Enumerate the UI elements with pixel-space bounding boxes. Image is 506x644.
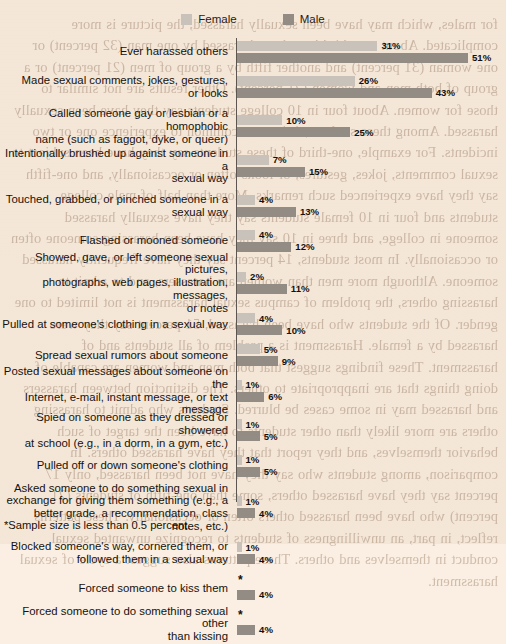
row-category-label: Touched, grabbed, or pinched someone in …: [0, 193, 232, 219]
bar-value-label: 4%: [259, 194, 273, 205]
row-category-label-line: name (such as faggot, dyke, or queer): [0, 133, 228, 146]
bar-value-label: 9%: [282, 356, 296, 367]
row-category-label: Pulled off or down someone's clothing: [0, 459, 232, 472]
row-category-label: Spied on someone as they dressed or show…: [0, 411, 232, 449]
bar-value-label: 31%: [381, 40, 400, 51]
bar-female: 1%: [237, 380, 506, 390]
bar-rect: [237, 590, 255, 600]
bar-rect: [237, 325, 282, 335]
row-bar-group: 7%15%: [237, 155, 506, 177]
row-bar-group: 4%13%: [237, 195, 506, 217]
bar-value-label: 5%: [264, 344, 278, 355]
legend-swatch-icon: [181, 14, 192, 25]
chart-legend: FemaleMale: [0, 13, 506, 25]
bar-male: 51%: [237, 53, 506, 63]
chart-row: Called someone gay or lesbian or a homop…: [0, 107, 506, 147]
bar-value-label: *: [238, 577, 243, 583]
row-bar-group: 4%12%: [237, 230, 506, 252]
chart-row: Pulled at someone's clothing in a sexual…: [0, 309, 506, 340]
row-category-label: Made sexual comments, jokes, gestures,or…: [0, 74, 232, 100]
row-bar-group: 10%25%: [237, 115, 506, 137]
row-category-label: Blocked someone's way, cornered them, or…: [0, 540, 232, 566]
bar-value-label: 1%: [246, 496, 260, 507]
bar-rect: [237, 392, 264, 402]
row-category-label-line: Showed, gave, or left someone sexual pic…: [0, 251, 228, 277]
bar-value-label: 4%: [259, 508, 273, 519]
row-bar-group: 5%9%: [237, 344, 506, 366]
row-category-label-line: or looks: [0, 87, 228, 100]
bar-male: 4%: [237, 554, 506, 564]
bar-value-label: 4%: [259, 554, 273, 565]
bar-male: 43%: [237, 88, 506, 98]
row-category-label-line: sexual way: [0, 172, 228, 185]
chart-footnote: *Sample size is less than 0.5 percent.: [4, 519, 191, 531]
chart-row: Blocked someone's way, cornered them, or…: [0, 533, 506, 573]
bar-rect: [237, 356, 278, 366]
row-category-label-line: Ever harassed others: [0, 45, 228, 58]
bar-value-label: *: [238, 612, 243, 618]
bar-male: 5%: [237, 431, 506, 441]
bar-female: 4%: [237, 195, 506, 205]
bar-value-label: 13%: [300, 206, 319, 217]
bar-rect: [237, 115, 282, 125]
chart-row: Posted sexual messages about someone on …: [0, 371, 506, 411]
chart-row: Intentionally brushed up against someone…: [0, 146, 506, 186]
bar-value-label: 51%: [472, 52, 491, 63]
bar-rect: [237, 284, 287, 294]
row-bar-group: 31%51%: [237, 41, 506, 63]
bar-female: 2%: [237, 272, 506, 282]
bar-value-label: 4%: [259, 229, 273, 240]
bar-value-label: 11%: [291, 283, 310, 294]
row-bar-group: 1%5%: [237, 419, 506, 441]
bar-rect: [237, 127, 350, 137]
bar-value-label: 10%: [286, 325, 305, 336]
row-category-label-line: Spied on someone as they dressed or show…: [0, 411, 228, 437]
bar-rect: [237, 554, 255, 564]
bar-rect: [237, 455, 242, 465]
bar-male: 4%: [237, 590, 506, 600]
bar-value-label: 5%: [264, 466, 278, 477]
bar-female: *: [237, 613, 506, 623]
row-category-label-line: Asked someone to do something sexual in: [0, 482, 228, 495]
row-category-label-line: Forced someone to do something sexual ot…: [0, 605, 228, 631]
bar-male: 5%: [237, 467, 506, 477]
row-bar-group: *4%: [237, 613, 506, 635]
bar-male: 15%: [237, 167, 506, 177]
bar-rect: [237, 155, 269, 165]
row-category-label-line: Touched, grabbed, or pinched someone in …: [0, 193, 228, 206]
row-bar-group: *4%: [237, 578, 506, 600]
bar-female: 5%: [237, 344, 506, 354]
bar-male: 25%: [237, 127, 506, 137]
chart-row: Made sexual comments, jokes, gestures,or…: [0, 67, 506, 107]
bar-rect: [237, 272, 246, 282]
bar-value-label: 1%: [246, 454, 260, 465]
bar-rect: [237, 230, 255, 240]
row-bar-group: 2%11%: [237, 272, 506, 294]
chart-row: Showed, gave, or left someone sexual pic…: [0, 256, 506, 308]
bar-rect: [237, 431, 260, 441]
row-category-label-line: at school (e.g., in a dorm, in a gym, et…: [0, 437, 228, 450]
bar-value-label: 26%: [359, 75, 378, 86]
row-category-label-line: Intentionally brushed up against someone…: [0, 147, 228, 173]
chart-row: Pulled off or down someone's clothing1%5…: [0, 450, 506, 481]
bar-rect: [237, 380, 242, 390]
row-category-label-line: sexual way: [0, 206, 228, 219]
bar-female: 4%: [237, 313, 506, 323]
row-category-label-line: Spread sexual rumors about someone: [0, 349, 228, 362]
bar-rect: [237, 344, 260, 354]
bar-rect: [237, 41, 377, 51]
bar-female: *: [237, 578, 506, 588]
bar-female: 7%: [237, 155, 506, 165]
bar-male: 13%: [237, 207, 506, 217]
bar-female: 31%: [237, 41, 506, 51]
row-category-label-line: Blocked someone's way, cornered them, or: [0, 540, 228, 553]
legend-item-male: Male: [283, 13, 325, 25]
legend-label: Female: [198, 13, 236, 25]
row-category-label: Called someone gay or lesbian or a homop…: [0, 107, 232, 145]
bar-male: 6%: [237, 392, 506, 402]
legend-swatch-icon: [283, 14, 294, 25]
bar-rect: [237, 542, 242, 552]
row-category-label-line: Pulled at someone's clothing in a sexual…: [0, 318, 228, 331]
bar-value-label: 12%: [295, 241, 314, 252]
